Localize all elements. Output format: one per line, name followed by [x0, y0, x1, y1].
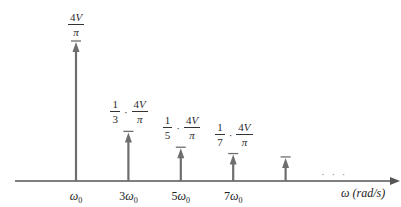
x-axis-label: ω (rad/s) [341, 186, 385, 201]
magnitude-fraction: 4Vπ [68, 12, 84, 38]
continuation-ellipsis: · · · [321, 168, 348, 180]
x-axis-label-text: ω (rad/s) [341, 186, 385, 200]
amplitude-label-5: 15·4Vπ [163, 115, 200, 141]
coefficient-fraction: 15 [163, 115, 173, 141]
coefficient-fraction: 17 [215, 122, 225, 148]
amplitude-label-1: 4Vπ [68, 12, 84, 38]
magnitude-fraction: 4Vπ [132, 99, 148, 125]
magnitude-fraction: 4Vπ [236, 122, 252, 148]
tick-label-7: 7ω0 [224, 189, 242, 205]
amplitude-label-3: 13·4Vπ [110, 99, 147, 125]
magnitude-fraction: 4Vπ [184, 115, 200, 141]
x-axis-arrow-icon [390, 177, 400, 185]
spike-arrow-icon [177, 148, 184, 158]
amplitude-label-7: 17·4Vπ [215, 122, 252, 148]
tick-label-1: ω0 [70, 189, 82, 205]
spike-arrow-icon [125, 132, 132, 142]
spike-arrow-icon [282, 158, 289, 168]
tick-label-3: 3ω0 [119, 189, 137, 205]
spike-arrow-icon [73, 42, 80, 52]
coefficient-fraction: 13 [110, 99, 120, 125]
tick-label-5: 5ω0 [172, 189, 190, 205]
spike-arrow-icon [230, 155, 237, 165]
